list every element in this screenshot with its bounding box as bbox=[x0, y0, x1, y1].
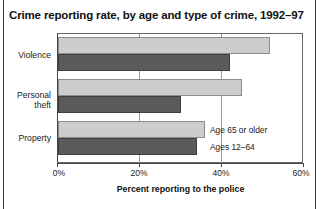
tickmark-0 bbox=[57, 164, 58, 167]
x-tick-label-20: 20% bbox=[130, 168, 147, 178]
category-label-property: Property bbox=[19, 133, 51, 143]
tickmark-20 bbox=[139, 164, 140, 167]
bar-personal-theft-ages-12-64 bbox=[58, 96, 181, 113]
category-label-personal-theft: Personal theft bbox=[17, 90, 51, 110]
bar-violence-ages-12-64 bbox=[58, 54, 230, 71]
x-tick-label-0: 0% bbox=[53, 168, 65, 178]
bar-personal-theft-age-65-or-older bbox=[58, 79, 242, 96]
x-axis-title: Percent reporting to the police bbox=[57, 184, 304, 194]
x-axis-spine bbox=[57, 163, 304, 164]
legend-label-ages-12-64: Ages 12–64 bbox=[210, 142, 255, 152]
tickmark-40 bbox=[221, 164, 222, 167]
bar-violence-age-65-or-older bbox=[58, 37, 270, 54]
bar-property-ages-12-64 bbox=[58, 138, 197, 155]
x-tick-label-40: 40% bbox=[212, 168, 229, 178]
x-tick-label-60: 60% bbox=[292, 168, 309, 178]
chart-title: Crime reporting rate, by age and type of… bbox=[9, 9, 309, 21]
tickmark-60 bbox=[303, 164, 304, 167]
category-label-violence: Violence bbox=[18, 50, 51, 60]
legend-label-age-65-or-older: Age 65 or older bbox=[210, 125, 267, 135]
crime-reporting-rate-figure: Crime reporting rate, by age and type of… bbox=[0, 0, 325, 209]
bar-property-age-65-or-older bbox=[58, 121, 205, 138]
